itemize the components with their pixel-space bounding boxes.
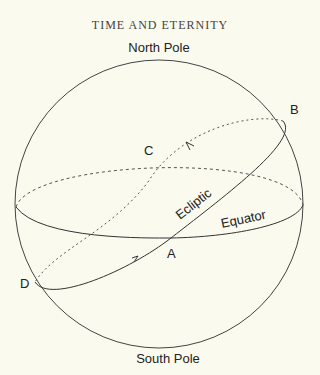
label-point-a: A — [167, 246, 176, 261]
equator-back-half — [16, 168, 303, 207]
label-north-pole: North Pole — [128, 40, 189, 55]
label-south-pole: South Pole — [136, 351, 200, 366]
arrow-front-icon — [132, 256, 138, 262]
ecliptic-back-half — [35, 119, 283, 282]
label-ecliptic: Ecliptic — [173, 185, 215, 222]
label-point-b: B — [290, 102, 299, 117]
celestial-sphere-diagram: North Pole South Pole B C A D Ecliptic E… — [0, 0, 320, 375]
label-point-d: D — [20, 276, 29, 291]
label-point-c: C — [144, 143, 153, 158]
sphere-outline — [15, 60, 303, 348]
ecliptic-front-half — [35, 121, 286, 289]
